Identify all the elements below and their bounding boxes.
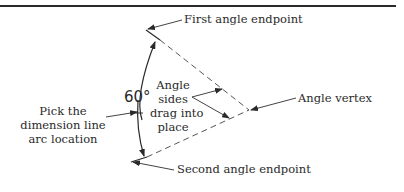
pick-arc-label: Pick the dimension line arc location xyxy=(16,104,110,146)
angle-sides-label: Angle sides drag into place xyxy=(150,78,196,134)
second-endpoint-label: Second angle endpoint xyxy=(177,162,311,176)
vertex-label: Angle vertex xyxy=(298,91,372,105)
dimension-arc-lower xyxy=(138,100,144,156)
angle-value: 60° xyxy=(124,88,151,106)
first-endpoint-label: First angle endpoint xyxy=(184,12,303,26)
